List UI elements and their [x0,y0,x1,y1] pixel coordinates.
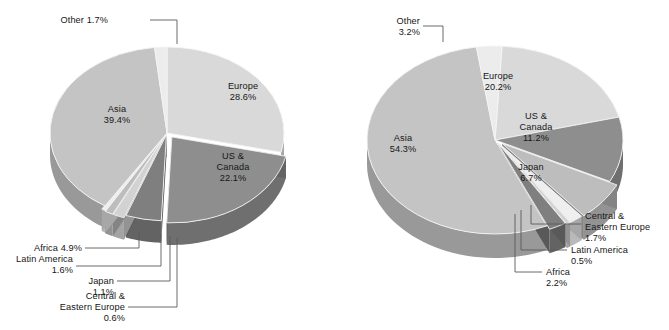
left-pie-chart [0,0,335,330]
right-pie-chart [335,0,669,330]
pie-slice-europe [167,47,284,152]
pie-chart-figure: Europe 28.6% Asia 39.4% US & Canada 22.1… [0,0,669,330]
